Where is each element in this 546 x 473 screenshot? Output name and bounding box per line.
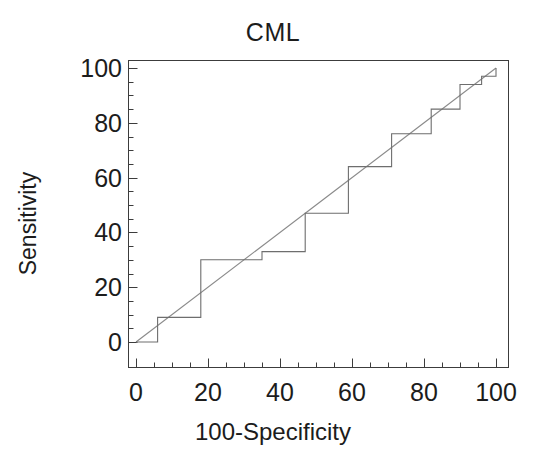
roc-chart: CML Sensitivity 100-Specificity 0 20 40 … <box>0 0 546 473</box>
plot-frame <box>129 61 509 368</box>
plot-canvas <box>0 0 546 473</box>
axis-frame <box>129 61 509 368</box>
tick-marks <box>129 69 497 368</box>
